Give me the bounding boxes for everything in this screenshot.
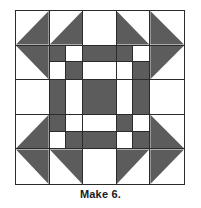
dark-patch	[50, 80, 66, 114]
block-cell-r5c2	[50, 149, 84, 184]
four-patch	[50, 115, 83, 149]
half-square-triangle-icon	[117, 11, 150, 45]
light-patch	[117, 62, 133, 79]
block-cell-r4c3	[83, 115, 117, 150]
block-cell-r3c2	[50, 80, 84, 115]
dark-patch	[117, 115, 133, 132]
block-cell-r2c4	[117, 46, 151, 81]
split-patch	[83, 115, 116, 149]
block-cell-r1c4	[117, 11, 151, 46]
half-square-triangle-icon	[16, 115, 49, 149]
half-square-triangle-icon	[16, 11, 49, 45]
block-cell-r3c4	[117, 80, 151, 115]
split-patch	[83, 46, 116, 80]
four-patch	[117, 115, 150, 149]
light-patch	[150, 80, 184, 114]
half-square-triangle-icon	[150, 11, 184, 45]
block-cell-r2c1	[16, 46, 50, 81]
half-square-triangle-icon	[150, 115, 184, 149]
block-cell-r1c3	[83, 11, 117, 46]
light-patch	[83, 11, 116, 45]
block-cell-r5c5	[150, 149, 184, 184]
dark-patch	[117, 46, 133, 63]
block-cell-r5c4	[117, 149, 151, 184]
quilt-block-figure: Make 6.	[0, 0, 201, 208]
light-patch	[50, 132, 66, 149]
dark-patch	[50, 115, 66, 132]
light-patch	[117, 80, 133, 114]
block-cell-r1c2	[50, 11, 84, 46]
light-patch	[66, 115, 82, 132]
light-patch	[50, 62, 66, 79]
dark-patch	[133, 62, 149, 79]
light-patch	[83, 62, 116, 79]
figure-caption: Make 6.	[0, 188, 201, 200]
light-patch	[133, 115, 149, 132]
dark-patch	[133, 80, 149, 114]
light-patch	[133, 46, 149, 63]
light-patch	[117, 132, 133, 149]
light-patch	[83, 115, 116, 132]
block-cell-r1c1	[16, 11, 50, 46]
block-cell-r4c4	[117, 115, 151, 150]
half-square-triangle-icon	[50, 149, 83, 184]
dark-patch	[66, 62, 82, 79]
half-square-triangle-icon	[16, 46, 49, 80]
dark-patch	[83, 46, 116, 63]
block-cell-r2c2	[50, 46, 84, 81]
half-square-triangle-icon	[50, 11, 83, 45]
block-cell-r2c3	[83, 46, 117, 81]
dark-patch	[50, 46, 66, 63]
block-cell-r5c1	[16, 149, 50, 184]
four-patch	[117, 46, 150, 80]
block-cell-r5c3	[83, 149, 117, 184]
block-cell-r4c5	[150, 115, 184, 150]
dark-patch	[83, 80, 116, 114]
four-patch	[50, 46, 83, 80]
half-square-triangle-icon	[117, 149, 150, 184]
half-square-triangle-icon	[16, 149, 49, 184]
block-cell-r4c2	[50, 115, 84, 150]
split-patch	[117, 80, 150, 114]
dark-patch	[66, 132, 82, 149]
block-cell-r3c5	[150, 80, 184, 115]
dark-patch	[83, 132, 116, 149]
block-grid	[16, 11, 184, 184]
dark-patch	[133, 132, 149, 149]
block-cell-r4c1	[16, 115, 50, 150]
split-patch	[50, 80, 83, 114]
light-patch	[83, 149, 116, 184]
block-cell-r3c3	[83, 80, 117, 115]
half-square-triangle-icon	[150, 149, 184, 184]
light-patch	[16, 80, 49, 114]
half-square-triangle-icon	[150, 46, 184, 80]
light-patch	[66, 46, 82, 63]
block-cell-r3c1	[16, 80, 50, 115]
quilt-block-diagram	[15, 10, 185, 185]
block-cell-r1c5	[150, 11, 184, 46]
light-patch	[66, 80, 82, 114]
block-cell-r2c5	[150, 46, 184, 81]
